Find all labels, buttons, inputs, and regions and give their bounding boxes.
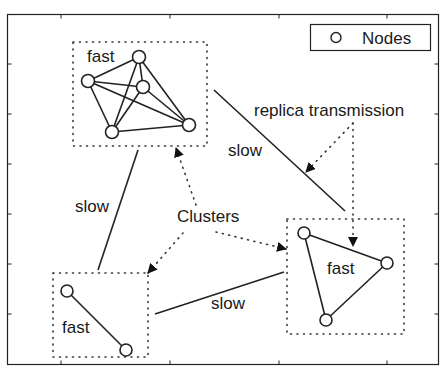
- slow-label-top-right: slow: [228, 141, 263, 160]
- clusters-label: Clusters: [177, 207, 239, 226]
- node-marker-icon: [331, 33, 341, 43]
- slow-label-bottom: slow: [211, 294, 246, 313]
- slow-links: [98, 90, 345, 314]
- node: [61, 285, 73, 297]
- replica-arrow-to-link: [306, 123, 353, 172]
- node: [320, 314, 332, 326]
- legend: Nodes: [311, 25, 431, 51]
- clusters-arrow-bottom-left: [148, 233, 183, 273]
- labels: fast fast fast slow slow slow replica tr…: [62, 47, 404, 337]
- node: [381, 257, 393, 269]
- cluster-label-right: fast: [327, 259, 355, 278]
- node: [137, 81, 150, 94]
- node: [133, 51, 146, 64]
- node: [183, 119, 196, 132]
- cluster-label-top-left: fast: [87, 47, 115, 66]
- cluster-label-bottom-left: fast: [62, 318, 90, 337]
- clusters-arrow-top-left: [176, 148, 196, 205]
- cluster-diagram: Nodes: [0, 0, 448, 370]
- node: [82, 75, 95, 88]
- slow-label-left: slow: [75, 197, 110, 216]
- node: [106, 126, 119, 139]
- replica-transmission-label: replica transmission: [254, 101, 404, 120]
- legend-label: Nodes: [362, 29, 411, 48]
- clusters-arrow-right: [216, 232, 286, 249]
- node: [120, 344, 132, 356]
- node: [298, 227, 310, 239]
